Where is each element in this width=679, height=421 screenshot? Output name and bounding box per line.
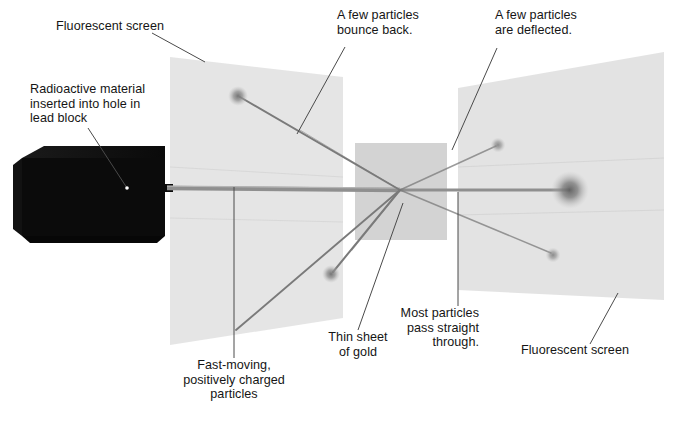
source-pinhole — [125, 186, 129, 190]
label-fluorescent-screen-left: Fluorescent screen — [56, 19, 226, 34]
label-deflected: A few particles are deflected. — [495, 8, 625, 37]
label-most-particles-pass-through: Most particles pass straight through. — [358, 306, 479, 350]
leader-fluorescent-screen-left — [152, 33, 205, 62]
undeflected-central-spot — [551, 171, 589, 209]
lead-block — [13, 146, 173, 243]
deflected-spot-lower-right — [546, 248, 561, 263]
leader-fluorescent-screen-right — [590, 293, 618, 344]
backscatter-spot-upper-left — [228, 86, 248, 106]
backscatter-spot-lower-left — [322, 265, 340, 283]
figure-canvas: Fluorescent screen Radioactive material … — [0, 0, 679, 421]
label-fast-moving-particles: Fast-moving, positively charged particle… — [154, 358, 314, 402]
label-fluorescent-screen-right: Fluorescent screen — [521, 343, 679, 358]
label-radioactive-material: Radioactive material inserted into hole … — [30, 82, 205, 126]
label-bounce-back: A few particles bounce back. — [337, 8, 467, 37]
deflected-spot-upper-right — [491, 138, 506, 153]
